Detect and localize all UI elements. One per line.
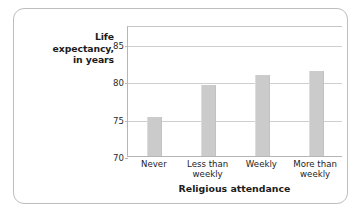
category-label-0: Never bbox=[127, 159, 181, 169]
category-label-1: Less than weekly bbox=[181, 159, 235, 180]
figure-frame: Life expectancy, in years 70758085 Never… bbox=[13, 8, 348, 204]
y-tick-label-75: 75 bbox=[113, 116, 124, 126]
y-tick-mark-85 bbox=[125, 46, 128, 47]
bar-3 bbox=[309, 71, 324, 156]
y-axis-title-line-3: in years bbox=[28, 54, 114, 66]
plot-area: 70758085 bbox=[127, 26, 342, 157]
bar-0 bbox=[147, 117, 162, 156]
y-tick-label-70: 70 bbox=[113, 153, 124, 163]
plot-wrapper: 70758085 NeverLess than weeklyWeeklyMore… bbox=[114, 26, 342, 157]
y-axis-title-line-1: Life bbox=[28, 31, 114, 43]
category-label-3: More than weekly bbox=[288, 159, 342, 180]
y-tick-label-85: 85 bbox=[113, 41, 124, 51]
y-axis-title-line-2: expectancy, bbox=[28, 43, 114, 55]
y-tick-mark-75 bbox=[125, 121, 128, 122]
category-label-2: Weekly bbox=[235, 159, 289, 169]
bar-2 bbox=[255, 75, 270, 156]
x-axis-title: Religious attendance bbox=[114, 183, 355, 194]
y-axis-title: Life expectancy, in years bbox=[28, 31, 114, 66]
y-tick-label-80: 80 bbox=[113, 78, 124, 88]
bar-1 bbox=[201, 85, 216, 156]
y-tick-mark-80 bbox=[125, 83, 128, 84]
gridline-85 bbox=[128, 46, 342, 47]
